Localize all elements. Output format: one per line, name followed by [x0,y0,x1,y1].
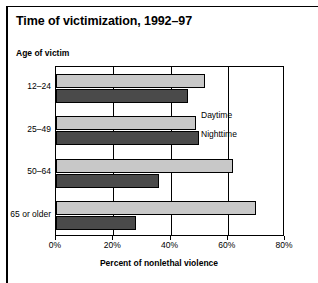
chart-title: Time of victimization, 1992–97 [16,14,192,28]
x-axis-title: Percent of nonlethal violence [0,258,318,268]
frame-left-rule [6,6,8,283]
bar-nighttime-0 [56,89,188,103]
bar-nighttime-1 [56,131,199,145]
legend-label-daytime: Daytime [201,110,232,120]
bar-daytime-3 [56,201,256,215]
y-tick-label-2: 50–64 [0,166,51,176]
frame-top-rule [6,6,318,7]
x-tick-label-1: 20% [104,240,121,250]
x-tick-label-4: 80% [275,240,292,250]
chart-screenshot: Time of victimization, 1992–97 Age of vi… [0,0,318,283]
y-axis-title: Age of victim [16,48,69,58]
y-tick-label-3: 65 or older [0,209,51,219]
bar-daytime-1 [56,116,196,130]
x-tick-label-0: 0% [49,240,61,250]
y-tick-label-1: 25–49 [0,124,51,134]
bar-daytime-2 [56,159,233,173]
legend-label-nighttime: Nighttime [201,129,237,139]
bar-daytime-0 [56,74,205,88]
x-tick-label-3: 60% [218,240,235,250]
y-tick-label-0: 12–24 [0,81,51,91]
bar-nighttime-2 [56,174,159,188]
bar-nighttime-3 [56,216,136,230]
x-tick-label-2: 40% [161,240,178,250]
plot-area [55,66,284,236]
